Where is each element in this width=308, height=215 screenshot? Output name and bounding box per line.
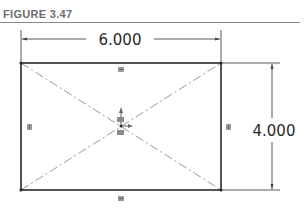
height-dimension[interactable]: 4.000	[222, 63, 295, 190]
width-dimension-value[interactable]: 6.000	[99, 31, 142, 49]
width-dimension[interactable]: 6.000	[21, 30, 221, 63]
horizontal-relation-icon[interactable]	[118, 196, 124, 201]
horizontal-relation-icon[interactable]	[118, 67, 124, 72]
height-dimension-value[interactable]: 4.000	[253, 122, 296, 140]
vertical-relation-icon[interactable]	[27, 124, 32, 130]
origin-icon[interactable]	[117, 107, 133, 135]
vertical-relation-icon[interactable]	[226, 124, 231, 130]
sketch-canvas: 6.000 4.000	[0, 0, 308, 215]
